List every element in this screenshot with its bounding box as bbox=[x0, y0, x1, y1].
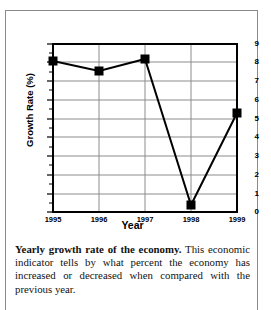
y-tick-label-1: 1 bbox=[245, 190, 259, 198]
x-axis-title: Year bbox=[6, 219, 259, 231]
figure-caption-lead: Yearly growth rate of the economy. bbox=[15, 243, 181, 255]
data-point-1995 bbox=[49, 57, 57, 65]
data-point-1997 bbox=[141, 55, 149, 63]
figure-frame: Growth Rate (%) 9 8 7 6 5 4 3 2 1 0 bbox=[5, 10, 258, 310]
y-tick-label-5: 5 bbox=[245, 115, 259, 123]
y-tick-label-3: 3 bbox=[245, 152, 259, 160]
data-point-1998 bbox=[187, 201, 195, 209]
data-point-1999 bbox=[233, 109, 241, 117]
y-tick-label-7: 7 bbox=[245, 77, 259, 85]
y-axis-title: Growth Rate (%) bbox=[24, 73, 35, 147]
y-tick-label-6: 6 bbox=[245, 96, 259, 104]
vertical-gridlines bbox=[99, 44, 191, 212]
y-axis-title-wrapper: Growth Rate (%) bbox=[19, 65, 33, 155]
line-chart-svg bbox=[6, 11, 259, 239]
data-point-1996 bbox=[95, 67, 103, 75]
y-tick-label-4: 4 bbox=[245, 133, 259, 141]
chart-plot-area: Growth Rate (%) 9 8 7 6 5 4 3 2 1 0 bbox=[6, 11, 259, 239]
y-tick-label-9: 9 bbox=[245, 40, 259, 48]
figure-caption: Yearly growth rate of the economy. This … bbox=[15, 243, 250, 296]
y-tick-label-8: 8 bbox=[245, 58, 259, 66]
y-tick-label-2: 2 bbox=[245, 171, 259, 179]
